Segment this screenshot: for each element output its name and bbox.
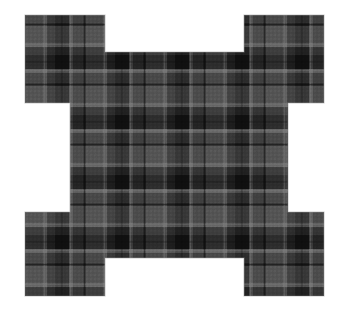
plaid-swatch-image [0,0,343,318]
image-canvas [0,0,343,318]
